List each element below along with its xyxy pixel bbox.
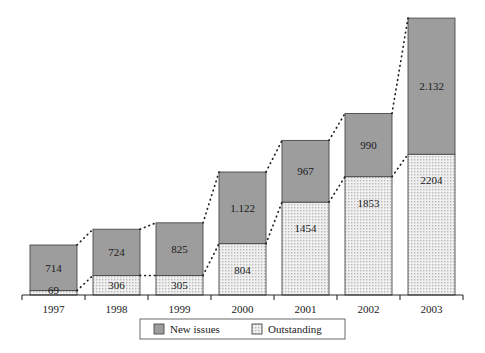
x-axis (22, 295, 463, 300)
chart-canvas: 714697243068253051.122804967145499018532… (0, 0, 485, 353)
outstanding-connector-line (266, 202, 282, 244)
value-label-new-issues-1998: 724 (108, 246, 125, 258)
value-label-outstanding-2002: 1853 (358, 197, 381, 209)
value-label-outstanding-1998: 306 (108, 279, 125, 291)
x-tick-label-2000: 2000 (232, 303, 255, 315)
value-label-outstanding-2000: 804 (234, 264, 251, 276)
value-label-new-issues-2003: 2.132 (419, 80, 444, 92)
value-label-outstanding-1997: 69 (48, 284, 60, 296)
bar-segment-outstanding-2001 (282, 202, 329, 295)
x-tick-label-1999: 1999 (169, 303, 192, 315)
outstanding-connector-line (329, 177, 345, 202)
totals-connector-line (203, 172, 219, 223)
legend-swatch-solid-gray-swatch (154, 324, 164, 334)
legend-label-outstanding: Outstanding (268, 323, 322, 335)
totals-connector-line (329, 113, 345, 140)
outstanding-connector-line (77, 275, 93, 290)
value-label-outstanding-2001: 1454 (295, 222, 318, 234)
value-label-new-issues-1999: 825 (171, 243, 188, 255)
x-tick-label-1997: 1997 (43, 303, 66, 315)
totals-connector-line (77, 229, 93, 245)
value-label-outstanding-2003: 2204 (421, 174, 444, 186)
x-tick-label-2003: 2003 (421, 303, 444, 315)
totals-connector-line (266, 140, 282, 172)
legend-label-new-issues: New issues (170, 323, 220, 335)
value-label-outstanding-1999: 305 (171, 279, 188, 291)
x-axis-tick-labels: 1997199819992000200120022003 (43, 303, 444, 315)
x-tick-label-1998: 1998 (106, 303, 129, 315)
bar-chart: 714697243068253051.122804967145499018532… (0, 0, 485, 353)
totals-connector-line (140, 223, 156, 229)
legend-swatch-stipple-swatch (252, 324, 262, 334)
x-tick-label-2001: 2001 (295, 303, 317, 315)
totals-connector-line (392, 18, 408, 113)
bar-segment-outstanding-2002 (345, 177, 392, 295)
value-label-new-issues-1997: 714 (45, 262, 62, 274)
outstanding-connector-line (392, 154, 408, 176)
value-label-new-issues-2001: 967 (297, 165, 314, 177)
value-label-new-issues-2002: 990 (360, 139, 377, 151)
value-label-new-issues-2000: 1.122 (230, 202, 255, 214)
chart-legend: New issuesOutstanding (140, 319, 345, 339)
bars-layer (30, 18, 455, 295)
x-tick-label-2002: 2002 (358, 303, 380, 315)
outstanding-connector-line (203, 244, 219, 276)
